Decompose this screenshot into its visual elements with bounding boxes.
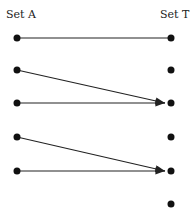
right-node [168, 67, 175, 74]
left-node [14, 134, 21, 141]
right-node [168, 168, 175, 175]
mapping-edge [17, 70, 165, 103]
left-node [14, 67, 21, 74]
right-node [168, 35, 175, 42]
right-node [168, 201, 175, 208]
left-node [14, 35, 21, 42]
mapping-edge [17, 137, 165, 171]
right-node [168, 100, 175, 107]
right-node [168, 134, 175, 141]
left-node [14, 100, 21, 107]
mapping-diagram [0, 0, 192, 213]
left-node [14, 168, 21, 175]
